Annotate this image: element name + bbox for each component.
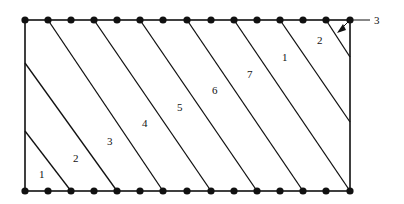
bottom-node-dot bbox=[207, 187, 214, 194]
boundary-rectangle bbox=[25, 20, 350, 191]
diagonal-line bbox=[234, 20, 350, 191]
region-label: 3 bbox=[107, 135, 113, 147]
callout-label: 3 bbox=[374, 14, 380, 26]
bottom-node-dot bbox=[113, 187, 120, 194]
top-node-dot bbox=[136, 16, 143, 23]
diagonal-line bbox=[280, 20, 350, 122]
diagonal-line bbox=[48, 20, 163, 191]
diagonal-line bbox=[94, 20, 211, 191]
region-label: 5 bbox=[177, 101, 183, 113]
diagonal-line bbox=[187, 20, 303, 191]
region-label: 2 bbox=[73, 152, 79, 164]
top-node-dot bbox=[67, 16, 74, 23]
region-label: 4 bbox=[142, 117, 148, 129]
diagonal-line bbox=[326, 20, 350, 57]
top-node-dot bbox=[21, 16, 28, 23]
callout-leader-line bbox=[341, 20, 370, 29]
top-node-dot bbox=[299, 16, 306, 23]
diagram-shapes bbox=[21, 16, 353, 194]
bottom-node-dot bbox=[322, 187, 329, 194]
bottom-node-dot bbox=[159, 187, 166, 194]
bottom-node-dot bbox=[299, 187, 306, 194]
callout: 3 bbox=[337, 14, 380, 33]
top-node-dot bbox=[159, 16, 166, 23]
bottom-node-dot bbox=[136, 187, 143, 194]
bottom-node-dot bbox=[44, 187, 51, 194]
bottom-node-dot bbox=[183, 187, 190, 194]
top-node-dot bbox=[230, 16, 237, 23]
top-node-dot bbox=[113, 16, 120, 23]
top-node-dot bbox=[183, 16, 190, 23]
bottom-node-dot bbox=[21, 187, 28, 194]
bottom-node-dot bbox=[67, 187, 74, 194]
top-node-dot bbox=[207, 16, 214, 23]
diagonal-line bbox=[140, 20, 257, 191]
bottom-node-dot bbox=[346, 187, 353, 194]
diagonal-line bbox=[25, 131, 71, 191]
region-label: 7 bbox=[247, 68, 253, 80]
top-node-dot bbox=[90, 16, 97, 23]
region-label: 6 bbox=[212, 84, 218, 96]
top-node-dot bbox=[253, 16, 260, 23]
region-label: 1 bbox=[39, 168, 45, 180]
bottom-node-dot bbox=[276, 187, 283, 194]
striped-rectangle-diagram: 123456712 3 bbox=[0, 0, 404, 204]
bottom-node-dot bbox=[230, 187, 237, 194]
top-node-dot bbox=[276, 16, 283, 23]
region-label: 2 bbox=[317, 34, 323, 46]
bottom-node-dot bbox=[253, 187, 260, 194]
bottom-node-dot bbox=[90, 187, 97, 194]
region-label: 1 bbox=[282, 51, 288, 63]
top-node-dot bbox=[44, 16, 51, 23]
top-node-dot bbox=[322, 16, 329, 23]
